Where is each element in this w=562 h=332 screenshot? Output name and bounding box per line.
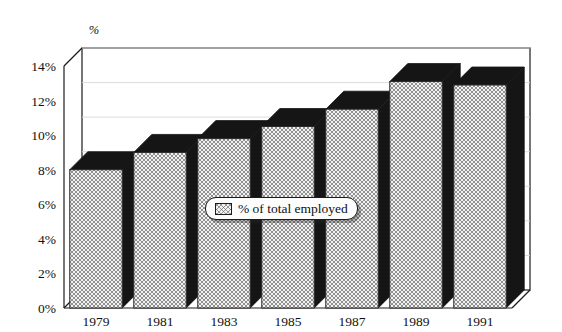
y-axis-tick-label: 0%	[38, 301, 56, 316]
bar	[390, 64, 460, 308]
bar-front-face	[198, 139, 250, 308]
bar-front-face	[134, 152, 186, 308]
bar-front-face	[390, 82, 442, 308]
y-axis-tick-label: 2%	[38, 266, 56, 281]
bar	[70, 152, 140, 308]
y-axis-tick-label: 8%	[38, 163, 56, 178]
depth-edge-top	[64, 48, 82, 66]
chart-legend[interactable]: % of total employed	[205, 197, 358, 220]
x-axis-tick-label: 1989	[403, 314, 430, 329]
y-axis-tick-label: 4%	[38, 232, 56, 247]
bar	[134, 134, 204, 308]
legend-item-label: % of total employed	[238, 202, 348, 216]
bar	[454, 67, 524, 308]
bar-side-face	[506, 67, 524, 308]
y-axis-tick-label: 10%	[31, 128, 56, 143]
x-axis-tick-label: 1991	[467, 314, 494, 329]
y-axis-labels: 0%2%4%6%8%10%12%14%	[31, 59, 56, 316]
bar-front-face	[70, 170, 122, 308]
crosshatch-swatch-icon	[215, 203, 232, 215]
x-axis-labels: 1979198119831985198719891991	[83, 314, 494, 329]
x-axis-tick-label: 1985	[275, 314, 302, 329]
chart-canvas: 0%2%4%6%8%10%12%14% 19791981198319851987…	[0, 0, 562, 332]
x-axis-tick-label: 1979	[83, 314, 110, 329]
y-axis-tick-label: 12%	[31, 94, 56, 109]
y-axis-tick-label: 6%	[38, 197, 56, 212]
x-axis-tick-label: 1987	[339, 314, 366, 329]
y-axis-tick-label: 14%	[31, 59, 56, 74]
y-axis-title: %	[89, 23, 99, 37]
x-axis-tick-label: 1981	[147, 314, 174, 329]
x-axis-tick-label: 1983	[211, 314, 238, 329]
bar-front-face	[454, 85, 506, 308]
bar-chart: 0%2%4%6%8%10%12%14% 19791981198319851987…	[0, 0, 562, 332]
